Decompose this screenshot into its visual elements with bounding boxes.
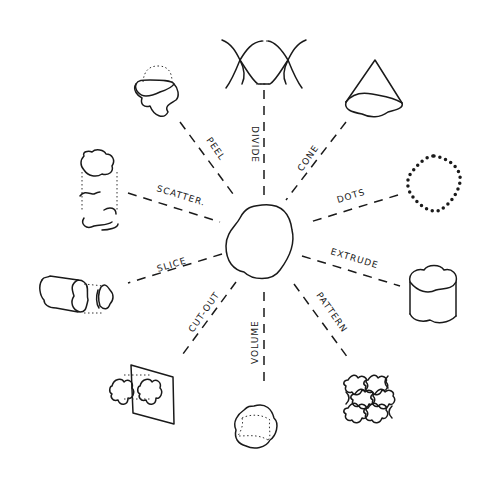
volume-icon bbox=[235, 405, 277, 448]
label-peel: PEEL bbox=[204, 135, 227, 162]
label-divide: DIVIDE bbox=[250, 126, 260, 163]
slice-icon bbox=[40, 276, 113, 313]
divide-icon bbox=[222, 40, 306, 88]
peel-icon bbox=[135, 66, 178, 116]
pattern-icon bbox=[344, 375, 395, 423]
label-pattern: PATTERN bbox=[314, 290, 349, 334]
label-cone: CONE bbox=[295, 143, 320, 173]
dots-icon bbox=[408, 156, 460, 211]
label-dots: DOTS bbox=[336, 187, 367, 205]
radial-diagram: DIVIDE CONE DOTS EXTRUDE PATTERN VOLUME … bbox=[0, 0, 489, 488]
spoke-peel bbox=[180, 122, 236, 198]
cone-icon bbox=[346, 60, 403, 117]
label-volume: VOLUME bbox=[250, 320, 260, 364]
cut-out-icon bbox=[110, 365, 174, 424]
spoke-cone bbox=[286, 122, 346, 200]
label-slice: SLICE bbox=[156, 255, 188, 273]
extrude-icon bbox=[410, 266, 457, 323]
spoke-cutout bbox=[180, 282, 236, 358]
center-blob-shape bbox=[226, 205, 293, 279]
label-cutout: CUT-OUT bbox=[186, 290, 221, 334]
scatter-icon bbox=[80, 150, 118, 230]
